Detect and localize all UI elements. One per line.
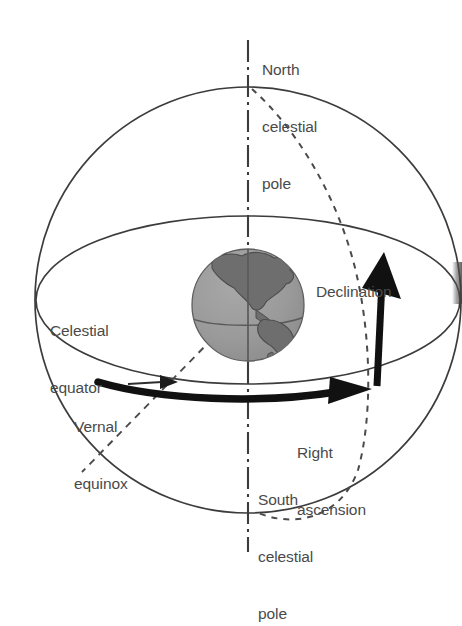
label-south-celestial-pole: South celestial pole [258, 452, 313, 626]
label-north-celestial-pole: North celestial pole [262, 22, 317, 231]
label-vernal-equinox: Vernal equinox [74, 379, 128, 531]
scan-edge-artifact [452, 262, 462, 304]
right-ascension-arrow [98, 377, 372, 404]
label-declination: Declination [316, 244, 392, 339]
